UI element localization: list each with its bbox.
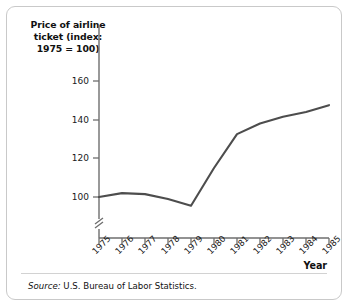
y-tick-marks <box>93 81 99 197</box>
y-tick-label-160: 160 <box>63 76 89 86</box>
figure-container: Price of airline ticket (index: 1975 = 1… <box>0 0 348 306</box>
line-chart-plot <box>7 7 341 299</box>
chart-panel: Price of airline ticket (index: 1975 = 1… <box>6 6 342 300</box>
source-keyword: Source: <box>28 281 61 291</box>
source-note: Source: U.S. Bureau of Labor Statistics. <box>28 281 197 291</box>
x-axis-title: Year <box>269 260 327 272</box>
footer-divider <box>21 273 327 274</box>
axes-group <box>95 25 329 238</box>
y-tick-label-120: 120 <box>63 153 89 163</box>
data-series-line <box>99 105 329 206</box>
source-text: U.S. Bureau of Labor Statistics. <box>61 281 197 291</box>
y-axis-break-icon <box>95 218 103 228</box>
y-tick-label-100: 100 <box>63 192 89 202</box>
y-tick-label-140: 140 <box>63 115 89 125</box>
